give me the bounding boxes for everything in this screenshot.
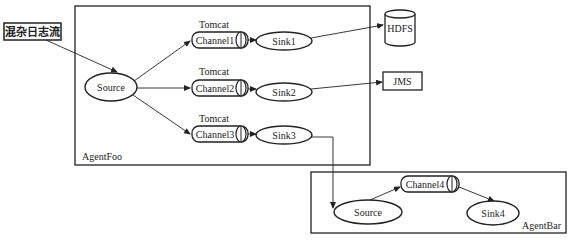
edge-channel4-to-sink4 [459,187,494,201]
agent-foo-label: AgentFoo [82,151,122,162]
edge-source-to-channel3 [133,95,190,134]
flow-2-group-label: Tomcat [199,66,229,77]
sink2-label: Sink2 [272,87,295,98]
agent-foo-source-label: Source [97,82,125,93]
input-log-stream-box: 混杂日志流 [4,23,61,40]
agent-bar-source-node: Source [334,200,402,224]
hdfs-label: HDFS [387,23,413,34]
sink2-node: Sink2 [256,83,312,101]
flow-1: Tomcat Channel1 Sink1 [192,19,383,50]
sink1-label: Sink1 [272,36,295,47]
edge-input-to-source [46,40,117,72]
flow-2: Tomcat Channel2 Sink2 [192,66,382,101]
channel3-node: Channel3 [192,126,248,142]
channel4-node: Channel4 [401,176,459,192]
flow-1-group-label: Tomcat [199,19,229,30]
channel2-node: Channel2 [192,80,248,96]
agent-foo-source-node: Source [85,73,137,101]
channel1-node: Channel1 [192,32,248,48]
edge-sink2-to-jms [311,82,382,89]
sink3-label: Sink3 [272,130,295,141]
flow-3-group-label: Tomcat [199,113,229,124]
channel4-label: Channel4 [406,179,444,190]
sink3-node: Sink3 [256,126,312,144]
agent-bar-source-label: Source [354,207,382,218]
input-log-stream-label: 混杂日志流 [5,25,60,39]
jms-node: JMS [383,72,422,90]
channel1-label: Channel1 [196,35,234,46]
sink1-node: Sink1 [256,32,312,50]
edge-bar-source-to-channel4 [370,187,400,200]
hdfs-storage-node: HDFS [385,10,415,46]
flow-3: Tomcat Channel3 Sink3 [192,113,333,208]
channel2-label: Channel2 [196,83,234,94]
agent-bar-label: AgentBar [522,220,562,231]
channel3-label: Channel3 [196,129,234,140]
sink4-label: Sink4 [481,208,504,219]
flume-architecture-diagram: 混杂日志流 AgentFoo Source Tomcat Channel1 Si… [0,0,578,244]
sink4-node: Sink4 [467,201,519,225]
edge-source-to-channel1 [134,41,190,81]
edge-sink1-to-hdfs [311,25,383,38]
jms-label: JMS [393,76,411,87]
